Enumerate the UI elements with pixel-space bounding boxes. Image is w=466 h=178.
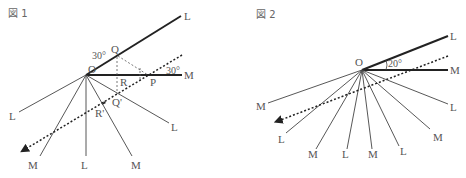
fan-line	[362, 70, 430, 129]
fan-line	[268, 70, 362, 103]
fan-line	[347, 70, 362, 149]
label-fan-l-2: L	[342, 148, 349, 160]
figure-1: 図 1 L M L M L M L O 30° Q R P 30° R' Q'	[8, 8, 194, 171]
label-fan-l-1: L	[278, 133, 285, 145]
fan-line	[286, 70, 362, 133]
fan-line	[40, 75, 86, 156]
figure-2: 図 2 L M M L M L M L M L O 20°	[256, 9, 460, 160]
figure-1-title: 図 1	[8, 8, 28, 19]
label-origin: O	[355, 56, 363, 68]
figure-2-title: 図 2	[256, 9, 276, 20]
construction-line-qp	[118, 56, 148, 75]
fan-line	[316, 70, 362, 149]
angle-label: 20°	[388, 58, 402, 69]
label-fan-m-1: M	[28, 159, 38, 171]
label-fan-m-4: M	[433, 131, 443, 143]
label-fan-m-1: M	[256, 100, 266, 112]
label-point-p: P	[150, 76, 156, 88]
angle-label-right: 30°	[166, 65, 180, 76]
angle-arc	[386, 60, 387, 70]
label-fan-l-right: L	[171, 121, 178, 133]
angle-label-top: 30°	[92, 50, 106, 61]
label-fan-m-3: M	[368, 148, 378, 160]
label-fan-l-left: L	[9, 110, 16, 122]
label-fan-l-4: L	[450, 101, 457, 113]
light-ray-dotted	[278, 56, 448, 121]
label-fan-m-2: M	[308, 148, 318, 160]
label-point-q-prime: Q'	[112, 96, 122, 108]
label-fan-m-2: M	[131, 159, 141, 171]
fan-line	[362, 70, 448, 104]
label-m-right: M	[450, 64, 460, 76]
label-point-r-prime: R'	[95, 107, 104, 119]
mirror-line-l-upper	[362, 36, 448, 70]
label-fan-l-bottom: L	[81, 159, 88, 171]
label-m-right: M	[184, 69, 194, 81]
light-ray-dotted	[24, 55, 182, 150]
label-l-upper: L	[184, 10, 191, 22]
label-point-r: R	[120, 76, 128, 88]
fan-line	[362, 70, 372, 149]
diagram-canvas: 図 1 L M L M L M L O 30° Q R P 30° R' Q'	[0, 0, 466, 178]
label-l-upper: L	[450, 30, 457, 42]
label-point-q: Q	[111, 43, 119, 55]
label-origin: O	[88, 63, 96, 75]
label-fan-l-3: L	[400, 145, 407, 157]
